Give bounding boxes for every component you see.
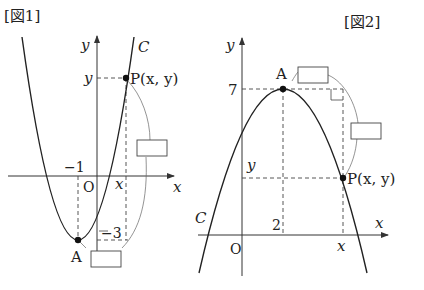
point-y-tick: y — [83, 69, 93, 87]
point-y-tick: y — [246, 156, 256, 174]
vertex-y-tick: −3 — [101, 225, 122, 241]
answer-box-2[interactable] — [351, 123, 381, 139]
answer-box-1[interactable] — [298, 67, 328, 83]
point-x-tick: x — [337, 237, 346, 255]
vertex-a-label: A — [70, 248, 82, 266]
point-p-label: P(x, y) — [130, 70, 178, 88]
vertex-x-tick: −1 — [64, 159, 85, 175]
y-axis-label: y — [80, 36, 90, 54]
point-p-label: P(x, y) — [347, 170, 395, 188]
point-p — [123, 75, 129, 81]
figure-1: [図1] x y O −1 −3 y x C P(x, y) A — [4, 7, 182, 267]
vertex-a — [280, 86, 286, 92]
annotation-arc-upper — [127, 80, 150, 140]
x-axis-label: x — [375, 214, 384, 232]
x-axis-label: x — [173, 178, 182, 196]
origin-label: O — [230, 241, 241, 257]
figure-1-title: [図1] — [4, 7, 40, 25]
answer-box-1[interactable] — [137, 140, 167, 156]
vertex-y-tick: 7 — [228, 81, 238, 99]
right-angle-mark — [331, 89, 343, 100]
y-axis-label: y — [225, 36, 235, 54]
curve-label: C — [138, 38, 150, 56]
vertex-a — [75, 237, 81, 243]
curve-label: C — [195, 209, 207, 227]
parabola-c — [22, 37, 134, 240]
point-x-tick: x — [115, 175, 124, 193]
vertex-a-label: A — [275, 65, 287, 83]
figure-2: [図2] x y O 7 2 y x C A P(x, y) — [195, 13, 395, 276]
point-p — [340, 175, 346, 181]
origin-label: O — [83, 179, 94, 195]
answer-box-2[interactable] — [91, 251, 121, 267]
diagram-canvas: [図1] x y O −1 −3 y x C P(x, y) A — [0, 0, 424, 290]
figure-2-title: [図2] — [344, 13, 380, 31]
annotation-arc-a — [292, 72, 298, 81]
vertex-x-tick: 2 — [272, 217, 281, 233]
